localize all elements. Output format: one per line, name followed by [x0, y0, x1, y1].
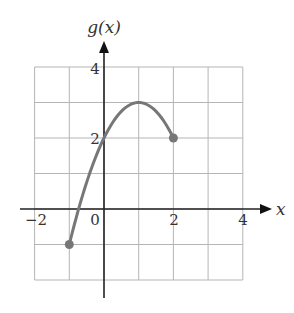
- axes: [20, 41, 272, 298]
- x-tick-label: −2: [25, 211, 47, 229]
- grid: [35, 67, 243, 280]
- x-tick-label: 4: [238, 211, 248, 229]
- graph-of-g: g(x) x −2 0 2 4 2 4: [0, 0, 294, 313]
- y-axis-arrow-icon: [99, 41, 109, 53]
- x-tick-label: 0: [90, 211, 100, 229]
- x-axis-label: x: [276, 199, 286, 219]
- x-tick-label: 2: [169, 211, 179, 229]
- endpoint-dot: [65, 240, 74, 249]
- y-tick-label: 4: [90, 60, 100, 78]
- endpoint-dot: [169, 134, 178, 143]
- y-axis-label: g(x): [87, 17, 121, 37]
- x-axis-arrow-icon: [260, 204, 272, 214]
- y-tick-label: 2: [90, 130, 100, 148]
- curve-layer: [65, 103, 178, 250]
